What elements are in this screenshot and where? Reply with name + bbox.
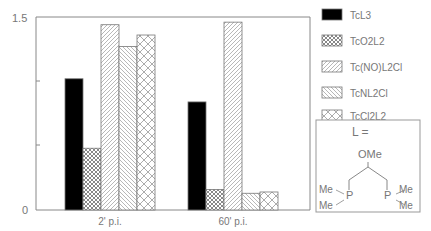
legend-label: TcO2L2	[350, 36, 385, 47]
legend-label: TcL3	[350, 10, 372, 21]
me-label-right-bottom: Me	[399, 200, 413, 211]
bar-chart: 1.5 0 2' p.i. 60' p.i. TcL3TcO2L2Tc(NO)L…	[0, 0, 431, 231]
legend-swatch	[322, 9, 342, 20]
y-tick-label-bottom: 0	[22, 204, 28, 216]
legend-swatch	[322, 61, 342, 72]
bar-tcl3-0	[65, 79, 83, 210]
bar-tco2l2-0	[83, 148, 101, 210]
bar-tccl2l2-1	[260, 192, 278, 210]
legend-item: TcL3	[322, 9, 372, 21]
me-label-left-top: Me	[319, 184, 333, 195]
legend-item: TcO2L2	[322, 35, 385, 47]
legend-swatch	[322, 87, 342, 98]
me-label-right-top: Me	[399, 184, 413, 195]
p-label-right: P	[384, 189, 391, 201]
bars-group	[65, 22, 278, 210]
bar-tc-no-l2cl-1	[224, 22, 242, 210]
bar-tcl3-1	[188, 102, 206, 210]
legend-item: TcNL2Cl	[322, 87, 388, 99]
bar-tcnl2cl-1	[242, 193, 260, 210]
legend-item: Tc(NO)L2Cl	[322, 61, 402, 73]
legend: TcL3TcO2L2Tc(NO)L2ClTcNL2ClTcCl2L2	[322, 9, 402, 122]
ligand-structure-box: L = OMe P P Me Me Me Me	[316, 120, 420, 212]
bar-tco2l2-1	[206, 189, 224, 210]
y-tick-label-top: 1.5	[12, 12, 27, 24]
me-label-left-bottom: Me	[319, 200, 333, 211]
bar-tc-no-l2cl-0	[101, 25, 119, 210]
p-label-left: P	[346, 189, 353, 201]
legend-label: TcNL2Cl	[350, 88, 388, 99]
legend-swatch	[322, 35, 342, 46]
bar-tccl2l2-0	[137, 35, 155, 210]
ligand-title: L =	[352, 125, 369, 139]
ome-label: OMe	[358, 148, 382, 160]
x-label-2min: 2' p.i.	[98, 216, 122, 227]
legend-swatch	[322, 110, 342, 121]
x-label-60min: 60' p.i.	[218, 216, 247, 227]
legend-label: Tc(NO)L2Cl	[350, 62, 402, 73]
bar-tcnl2cl-0	[119, 47, 137, 210]
